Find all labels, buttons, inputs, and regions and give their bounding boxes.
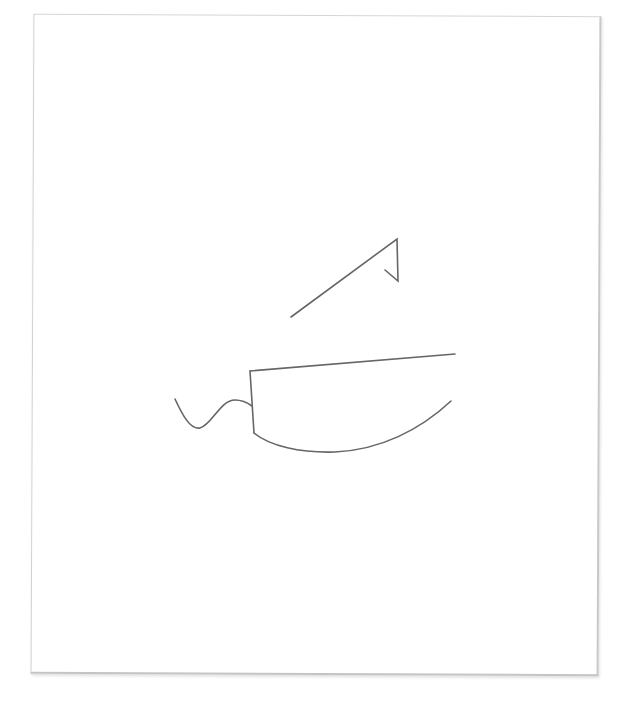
blade-spine-stroke xyxy=(250,354,455,371)
blade-heel-stroke xyxy=(250,371,254,433)
handle-squiggle-stroke xyxy=(175,399,252,428)
upper-diagonal-stroke xyxy=(291,239,398,317)
sketch-drawing xyxy=(0,0,629,703)
blade-edge-stroke xyxy=(254,401,451,452)
